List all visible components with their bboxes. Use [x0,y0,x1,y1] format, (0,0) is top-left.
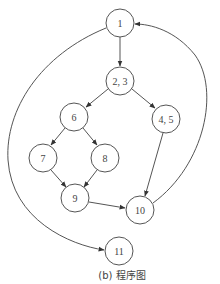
node-label: 1 [118,18,123,29]
figure-caption: (b) 程序图 [98,269,145,281]
program-graph: 1 2, 3 6 4, 5 7 8 9 10 11 (b) 程序图 [0,0,220,284]
node-label: 2, 3 [113,76,128,87]
node-8: 8 [91,144,119,172]
edge-4-5-to-10 [145,133,163,196]
node-label: 9 [73,193,78,204]
edge-2-3-to-4-5 [132,89,155,108]
edge-6-to-7 [51,128,65,145]
edge-2-3-to-6 [86,89,108,107]
node-label: 4, 5 [159,114,174,125]
node-1: 1 [106,9,134,37]
node-6: 6 [60,103,88,131]
node-2-3: 2, 3 [106,67,134,95]
edge-9-to-10 [89,202,125,208]
node-label: 11 [114,246,124,257]
node-label: 8 [103,153,108,164]
edge-6-to-8 [83,128,97,145]
edges [8,24,207,250]
edge-8-to-9 [84,170,97,187]
node-label: 7 [41,153,46,164]
node-label: 6 [72,112,77,123]
node-7: 7 [29,144,57,172]
node-label: 10 [135,205,145,216]
node-10: 10 [126,196,154,224]
edge-7-to-9 [51,170,66,187]
node-11: 11 [105,237,133,265]
node-4-5: 4, 5 [152,105,180,133]
edge-1-to-11 [8,28,106,250]
node-9: 9 [61,184,89,212]
